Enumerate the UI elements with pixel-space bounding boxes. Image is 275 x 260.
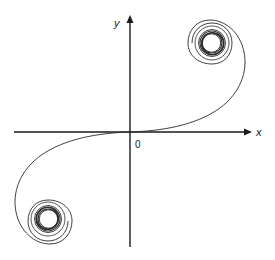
- x-axis-label: x: [255, 126, 262, 138]
- y-axis-label: y: [113, 17, 121, 29]
- origin-label: 0: [135, 139, 141, 150]
- phase-portrait-figure: x y 0: [0, 0, 275, 260]
- lower-left-spiral: [15, 132, 130, 244]
- upper-right-spiral: [130, 20, 245, 132]
